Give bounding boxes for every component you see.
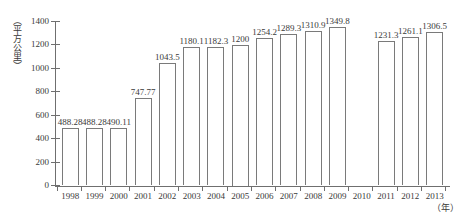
bar-value-label: 1306.5 <box>417 22 453 31</box>
bar <box>183 47 200 186</box>
bar <box>305 31 322 185</box>
bar-value-label: 1043.5 <box>149 53 185 62</box>
y-axis-tick-label: 200 <box>36 158 50 167</box>
y-axis-tick-label: 1400 <box>31 17 49 26</box>
x-axis-tick-label: 2013 <box>419 192 451 201</box>
bar <box>329 27 346 186</box>
x-axis-tick <box>154 186 155 191</box>
x-axis-tick <box>105 186 106 191</box>
bar <box>62 128 79 185</box>
x-axis-tick <box>300 186 301 191</box>
bar <box>110 128 127 186</box>
x-axis-tick <box>178 186 179 191</box>
bar-value-label: 490.11 <box>101 118 137 127</box>
x-axis-tick <box>251 186 252 191</box>
bar <box>86 128 103 185</box>
y-axis-tick-label: 1000 <box>31 64 49 73</box>
y-axis-tick <box>51 138 60 139</box>
x-axis-title: （年） <box>432 204 459 213</box>
y-axis-tick <box>51 115 60 116</box>
bar <box>256 38 273 185</box>
bar <box>207 47 224 186</box>
y-axis-tick-label: 1200 <box>31 40 49 49</box>
y-axis-tick <box>51 44 60 45</box>
bar-value-label: 1349.8 <box>319 17 355 26</box>
y-axis-tick-label: 400 <box>36 134 50 143</box>
bar <box>159 63 176 186</box>
x-axis-tick <box>397 186 398 191</box>
x-axis-tick <box>57 186 58 191</box>
x-axis-tick <box>227 186 228 191</box>
y-axis-tick <box>51 91 60 92</box>
y-axis-tick <box>51 68 60 69</box>
x-axis-tick <box>129 186 130 191</box>
y-axis-tick-label: 600 <box>36 111 50 120</box>
bar <box>280 34 297 185</box>
x-axis-tick <box>202 186 203 191</box>
x-axis-tick <box>324 186 325 191</box>
bar <box>402 37 419 185</box>
x-axis-tick <box>81 186 82 191</box>
bar <box>232 45 249 186</box>
y-axis-tick <box>51 162 60 163</box>
x-axis-tick <box>275 186 276 191</box>
bar-value-label: 747.77 <box>125 88 161 97</box>
y-axis-tick-label: 800 <box>36 87 50 96</box>
x-axis-tick <box>421 186 422 191</box>
x-axis-tick <box>348 186 349 191</box>
x-axis-tick <box>372 186 373 191</box>
x-axis-line <box>55 186 450 187</box>
bar <box>378 41 395 186</box>
x-axis-tick <box>445 186 446 191</box>
y-axis-title: （平方公里） <box>6 16 22 70</box>
y-axis-tick <box>51 21 60 22</box>
bar-chart: （平方公里） 0200400600800100012001400 1998199… <box>0 0 463 220</box>
y-axis-tick-label: 0 <box>45 181 50 190</box>
bar <box>135 98 152 186</box>
bar <box>426 32 443 186</box>
